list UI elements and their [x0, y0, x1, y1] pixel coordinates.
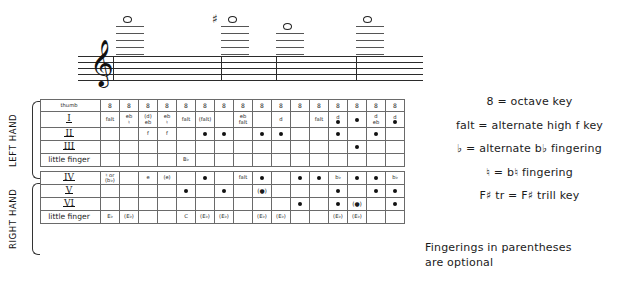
notehead	[228, 16, 237, 23]
grid-cell	[348, 141, 367, 154]
table-row: VI(●)	[41, 198, 405, 211]
cell-content: (E♭)	[253, 214, 271, 219]
right-hand-label: RIGHT HAND	[8, 186, 18, 252]
cell-text: (e)	[163, 175, 170, 180]
grid-cell	[234, 154, 253, 167]
cell-content: d	[329, 115, 347, 125]
grid-cell	[310, 211, 329, 224]
grid-cell	[177, 141, 196, 154]
ledger-line	[356, 47, 384, 48]
grid-cell	[101, 141, 120, 154]
grid-cell	[367, 211, 386, 224]
note-2: ♯	[221, 18, 255, 58]
optional-dot: (●)	[257, 188, 266, 194]
grid-cell: (E♭)	[215, 211, 234, 224]
cell-content: falt	[310, 117, 328, 122]
grid-cell: deb	[367, 112, 386, 128]
grid-cell	[253, 154, 272, 167]
grid-cell: eb♮	[158, 112, 177, 128]
grid-cell	[329, 154, 348, 167]
cell-content	[291, 176, 309, 181]
legend: 8 = octave keyfalt = alternate high f ke…	[432, 96, 627, 214]
grid-cell	[120, 198, 139, 211]
table-row: IIff	[41, 128, 405, 141]
cell-text: eb	[145, 120, 151, 125]
notehead	[363, 16, 372, 23]
footnote-line-1: Fingerings in parentheses	[425, 240, 625, 255]
cell-content	[329, 202, 347, 207]
row-label-i: I	[41, 112, 101, 128]
grid-cell: 8	[101, 100, 120, 112]
grid-cell: d	[272, 112, 291, 128]
fingering-dot	[260, 132, 264, 136]
fingering-grid: thumb8888888888888888Ifalteb♮(d)ebeb♮fal…	[40, 99, 405, 224]
music-notation: 𝄞 ♯	[78, 4, 423, 94]
fingering-dot	[393, 189, 397, 193]
cell-text: e	[146, 175, 149, 180]
grid-cell	[253, 141, 272, 154]
note-4	[356, 18, 390, 58]
grid-cell	[101, 128, 120, 141]
cell-content	[367, 132, 385, 137]
legend-line-2: falt = alternate high f key	[432, 120, 627, 131]
grid-cell: 8	[329, 100, 348, 112]
cell-content: C	[177, 214, 195, 219]
fingering-dot	[203, 132, 207, 136]
staff-line	[78, 80, 423, 81]
grid-cell	[120, 141, 139, 154]
left-hand-brace	[32, 101, 40, 179]
grid-cell: (E♭)	[120, 211, 139, 224]
table-row: little fingerB♭	[41, 154, 405, 167]
cell-text: E♭	[107, 214, 113, 219]
grid-cell	[215, 172, 234, 185]
grid-cell	[215, 154, 234, 167]
grid-cell	[310, 128, 329, 141]
grid-cell	[215, 112, 234, 128]
fingering-dot	[260, 176, 264, 180]
grid-cell	[367, 198, 386, 211]
grid-cell	[291, 154, 310, 167]
cell-content: ebfalt	[234, 114, 252, 125]
ledger-line	[116, 26, 144, 27]
staff-line	[78, 62, 423, 63]
ledger-line	[221, 26, 249, 27]
row-label-v: V	[41, 185, 101, 198]
fingering-dot	[279, 132, 283, 136]
cell-content: b♭	[386, 175, 404, 180]
cell-content	[310, 176, 328, 181]
grid-cell	[120, 154, 139, 167]
cell-content: falt	[177, 117, 195, 122]
fingering-dot	[393, 202, 397, 206]
cell-text: falt	[106, 117, 114, 122]
row-label-text: I	[66, 116, 72, 123]
grid-cell	[348, 154, 367, 167]
cell-content: (●)	[348, 201, 366, 207]
grid-cell	[196, 128, 215, 141]
cell-content	[329, 132, 347, 137]
grid-cell	[234, 185, 253, 198]
grid-cell	[196, 154, 215, 167]
cell-text: falt	[239, 175, 247, 180]
table-row: IV♮ or(b♭)e(e)faltb♭b♭	[41, 172, 405, 185]
legend-line-1: 8 = octave key	[432, 96, 627, 107]
grid-cell	[139, 141, 158, 154]
grid-cell	[158, 211, 177, 224]
accidental-sharp-icon: ♯	[212, 13, 218, 25]
ledger-line	[356, 33, 384, 34]
grid-cell	[158, 141, 177, 154]
grid-cell: d	[329, 112, 348, 128]
optional-dot: (●)	[352, 201, 361, 207]
fingering-dot	[336, 120, 340, 124]
grid-cell: d	[386, 112, 405, 128]
grid-cell	[291, 211, 310, 224]
grid-cell: falt	[310, 112, 329, 128]
ledger-line	[116, 33, 144, 34]
grid-cell	[272, 128, 291, 141]
grid-cell	[177, 185, 196, 198]
cell-text: d	[393, 115, 396, 120]
ledger-line	[116, 47, 144, 48]
legend-line-3: ♭ = alternate b♭ fingering	[432, 143, 627, 154]
grid-cell	[215, 141, 234, 154]
grid-cell: f	[139, 128, 158, 141]
cell-text: d	[279, 117, 282, 122]
